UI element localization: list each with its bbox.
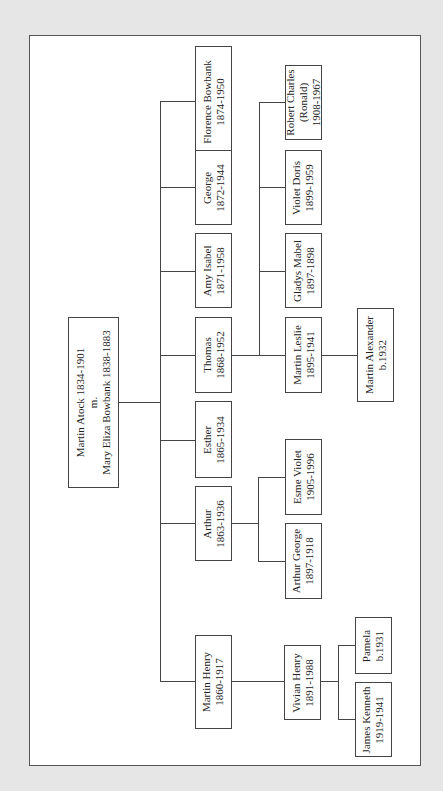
node-label: George 1872-1944 <box>201 164 227 212</box>
connector-vivian <box>232 681 284 682</box>
connector-james <box>338 719 355 720</box>
connector-arthur-george <box>258 561 285 562</box>
node-root-couple: Martin Atock 1834-1901 m. Mary Eliza Bow… <box>68 317 119 488</box>
connector-vivian-out <box>321 681 338 682</box>
connector-amy <box>160 271 195 272</box>
bus-vivian-children <box>338 645 339 719</box>
connector-martin-henry <box>160 681 195 682</box>
node-thomas: Thomas 1868-1952 <box>195 317 232 393</box>
node-esther: Esther 1865-1934 <box>195 401 232 478</box>
connector-george <box>160 187 195 188</box>
node-amy: Amy Isabel 1871-1958 <box>195 233 232 308</box>
node-martin-leslie: Martin Leslie 1895-1941 <box>285 317 322 393</box>
node-label: Florence Bowbank 1874-1950 <box>201 60 227 143</box>
connector-pamela <box>338 645 355 646</box>
node-label: Arthur 1863-1936 <box>201 500 227 548</box>
node-violet: Violet Doris 1899-1959 <box>285 150 322 225</box>
node-martin-henry: Martin Henry 1860-1917 <box>195 635 232 729</box>
connector-violet <box>259 187 285 188</box>
node-arthur: Arthur 1863-1936 <box>195 486 232 561</box>
node-label: Robert Charles (Ronald) 1908-1967 <box>284 69 323 135</box>
node-label: Pamela b.1931 <box>360 629 386 661</box>
connector-arthur <box>160 523 195 524</box>
node-label: Martin Atock 1834-1901 m. Mary Eliza Bow… <box>74 330 113 475</box>
node-arthur-george: Arthur George 1897-1918 <box>285 523 322 599</box>
connector-thomas <box>160 355 195 356</box>
node-george: George 1872-1944 <box>195 150 232 225</box>
node-label: Gladys Mabel 1897-1898 <box>291 239 317 301</box>
connector-esther <box>160 440 195 441</box>
connector-root <box>118 402 160 403</box>
node-pamela: Pamela b.1931 <box>355 617 392 674</box>
node-label: James Kenneth 1919-1941 <box>361 686 387 753</box>
node-gladys: Gladys Mabel 1897-1898 <box>285 233 322 308</box>
node-florence: Florence Bowbank 1874-1950 <box>195 46 232 157</box>
connector-martin-alexander <box>322 355 357 356</box>
connector-thomas-out <box>232 355 259 356</box>
node-label: Esther 1865-1934 <box>201 416 227 464</box>
bus-generation-1 <box>160 101 161 681</box>
node-label: Thomas 1868-1952 <box>201 331 227 379</box>
node-label: Martin Alexander b.1932 <box>363 316 389 394</box>
node-label: Martin Leslie 1895-1941 <box>291 325 317 385</box>
connector-martin-leslie <box>259 355 285 356</box>
connector-robert <box>259 102 285 103</box>
node-robert: Robert Charles (Ronald) 1908-1967 <box>285 65 322 140</box>
node-label: Esme Violet 1905-1996 <box>291 450 317 504</box>
node-label: Martin Henry 1860-1917 <box>201 652 227 712</box>
connector-arthur-out <box>232 523 258 524</box>
node-martin-alexander: Martin Alexander b.1932 <box>357 308 394 402</box>
node-label: Arthur George 1897-1918 <box>291 529 317 593</box>
connector-esme <box>258 477 285 478</box>
node-label: Vivian Henry 1891-1988 <box>290 653 316 713</box>
bus-thomas-children <box>259 102 260 355</box>
connector-florence <box>160 101 195 102</box>
node-label: Violet Doris 1899-1959 <box>291 160 317 214</box>
node-vivian: Vivian Henry 1891-1988 <box>284 645 321 720</box>
node-esme: Esme Violet 1905-1996 <box>285 439 322 515</box>
bus-arthur-children <box>258 477 259 561</box>
connector-gladys <box>259 271 285 272</box>
node-james-kenneth: James Kenneth 1919-1941 <box>355 682 392 757</box>
node-label: Amy Isabel 1871-1958 <box>201 245 227 296</box>
